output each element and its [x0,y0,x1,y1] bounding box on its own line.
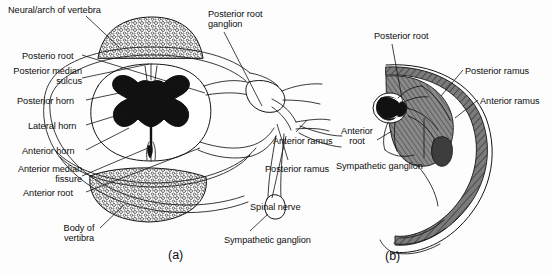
anterior-root-path [198,128,276,158]
label-b-posterior-ramus: Posterior ramus [465,66,529,76]
leader-posterior-root-ganglion [224,32,262,106]
label-spinal-nerve: Spinal nerve [250,202,300,212]
label-body-of-vertibra: Body of vertibra [57,223,101,244]
label-anterior-ramus: Anterior ramus [273,136,333,146]
caption-b: (b) [385,249,400,263]
anatomy-figure: Neural/arch of vertebra Posterio root Po… [0,0,553,276]
label-lateral-horn: Lateral horn [28,121,76,131]
label-sympathetic-ganglion: Sympathetic ganglion [224,235,311,245]
vertebral-body-bone [90,168,207,222]
label-anterior-root: Anterior root [23,188,73,198]
label-anterior-horn: Anterior horn [22,146,74,156]
label-b-posterior-root: Posterior root [374,31,428,41]
caption-a: (a) [168,248,183,262]
posterior-root-and-ganglion [204,80,322,112]
b-sympathetic-ganglion-bulb [432,137,453,167]
label-posterior-ramus: Posterior ramus [265,164,329,174]
label-posterio-root: Posterio root [22,51,73,61]
label-b-anterior-root: Anterior root [336,126,378,147]
leader-sympathetic-ganglion [250,214,268,231]
neural-arch-bone [98,17,203,58]
label-neural-arch-of-vertebra: Neural/arch of vertebra [8,5,101,15]
label-posterior-root-ganglion: Posterior root ganglion [208,9,262,30]
label-anterior-median-fissure: Anterior median fissure [0,164,82,185]
label-b-anterior-ramus: Anterior ramus [480,96,540,106]
label-posterior-horn: Posterior horn [17,96,74,106]
panel-b-drawing [373,65,492,254]
label-posterior-median-sulcus: Posterior median sulcus [0,66,82,87]
label-b-sympathetic-ganglion: Sympathetic ganglion [336,161,423,171]
